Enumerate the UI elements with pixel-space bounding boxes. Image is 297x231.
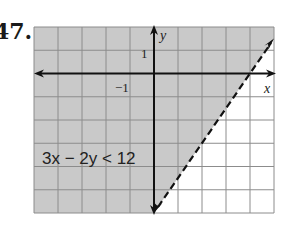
inequality-graph: y x 1 −1 3x − 2y < 12 xyxy=(0,0,297,231)
tick-label-y: 1 xyxy=(141,46,148,61)
tick-label-x: −1 xyxy=(115,80,129,95)
x-axis-label: x xyxy=(263,81,271,96)
inequality-label: 3x − 2y < 12 xyxy=(42,149,136,168)
y-axis-label: y xyxy=(158,28,167,43)
